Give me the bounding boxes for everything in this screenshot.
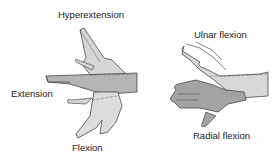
- extension-hand: [46, 73, 137, 104]
- label-ulnar-flexion: Ulnar flexion: [194, 29, 247, 40]
- label-extension: Extension: [11, 88, 53, 99]
- label-hyperextension: Hyperextension: [58, 9, 124, 20]
- label-radial-flexion: Radial flexion: [193, 130, 250, 141]
- label-flexion: Flexion: [72, 142, 103, 153]
- wrist-movements-diagram: Hyperextension Extension Flexion Ulnar f…: [0, 0, 274, 162]
